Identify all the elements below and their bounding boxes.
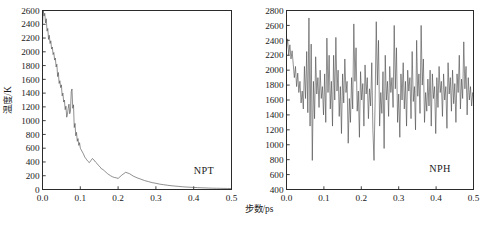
nph-y-tick-label: 1200 [265, 125, 284, 135]
npt-x-tick-label: 0.5 [226, 193, 238, 203]
npt-y-tick-label: 2600 [21, 6, 40, 16]
nph-x-tick-label: 0.1 [318, 193, 330, 203]
figure-container: 0200400600800100012001400160018002000220… [0, 0, 480, 230]
npt-x-tick-label: 0.0 [37, 193, 49, 203]
npt-y-tick-label: 1800 [21, 61, 40, 71]
nph-x-tick-label: 0.0 [281, 193, 293, 203]
y-axis-title: 温度/K [2, 86, 13, 114]
nph-x-axis-ticks: 0.00.10.20.30.40.5 [281, 186, 480, 202]
dual-panel-temperature-chart: 0200400600800100012001400160018002000220… [0, 0, 480, 230]
x-axis-title: 步数/ps [245, 203, 274, 214]
nph-y-tick-label: 2600 [265, 21, 284, 31]
nph-y-tick-label: 2800 [265, 6, 284, 16]
nph-data-line [287, 18, 474, 160]
npt-y-tick-label: 600 [26, 143, 40, 153]
npt-x-tick-label: 0.2 [112, 193, 124, 203]
npt-x-tick-label: 0.4 [188, 193, 200, 203]
npt-data-line [43, 11, 232, 189]
nph-y-tick-label: 2200 [265, 50, 284, 60]
npt-y-tick-label: 1600 [21, 75, 40, 85]
npt-y-tick-label: 1000 [21, 116, 40, 126]
nph-y-tick-label: 2400 [265, 36, 284, 46]
nph-x-tick-label: 0.3 [393, 193, 405, 203]
nph-annotation-label: NPH [429, 163, 451, 174]
panel-npt: 0200400600800100012001400160018002000220… [21, 6, 238, 203]
nph-y-tick-label: 1800 [265, 80, 284, 90]
npt-y-tick-label: 2000 [21, 47, 40, 57]
nph-x-tick-label: 0.5 [468, 193, 480, 203]
npt-y-tick-label: 2400 [21, 19, 40, 29]
nph-x-tick-label: 0.2 [356, 193, 368, 203]
nph-y-tick-label: 600 [270, 170, 284, 180]
nph-y-tick-label: 1400 [265, 110, 284, 120]
nph-y-tick-label: 1000 [265, 140, 284, 150]
npt-x-tick-label: 0.1 [75, 193, 87, 203]
npt-annotation-label: NPT [194, 165, 215, 176]
npt-y-tick-label: 800 [26, 130, 40, 140]
panel-nph: 4006008001000120014001600180020002200240… [265, 6, 480, 203]
npt-x-tick-label: 0.3 [150, 193, 162, 203]
npt-x-axis-ticks: 0.00.10.20.30.40.5 [37, 186, 238, 202]
nph-x-tick-label: 0.4 [430, 193, 442, 203]
nph-y-tick-label: 800 [270, 155, 284, 165]
npt-y-tick-label: 200 [26, 171, 40, 181]
npt-y-tick-label: 1200 [21, 102, 40, 112]
nph-y-tick-label: 1600 [265, 95, 284, 105]
npt-y-tick-label: 1400 [21, 88, 40, 98]
npt-y-tick-label: 2200 [21, 33, 40, 43]
nph-y-tick-label: 2000 [265, 65, 284, 75]
npt-y-tick-label: 400 [26, 157, 40, 167]
